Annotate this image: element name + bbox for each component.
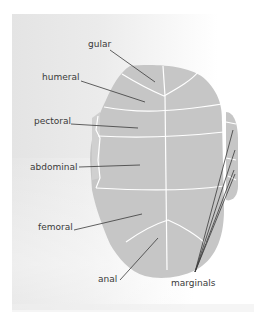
background-bottom-edge [12, 304, 254, 312]
label-abdominal: abdominal [30, 162, 77, 172]
label-femoral: femoral [38, 222, 73, 232]
label-gular: gular [88, 39, 111, 49]
plastron-diagram: gular humeral pectoral abdominal femoral… [0, 0, 254, 320]
label-humeral: humeral [42, 72, 79, 82]
plastron [90, 65, 238, 278]
label-anal: anal [98, 274, 117, 284]
label-pectoral: pectoral [34, 116, 71, 126]
label-marginals: marginals [171, 278, 216, 288]
